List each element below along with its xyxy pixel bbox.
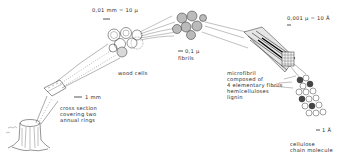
scale-label-molecule: 1 Å (322, 127, 331, 133)
scale-label-cross-section: 1 mm (85, 94, 101, 100)
label-wood-cells: wood cells (118, 70, 148, 76)
zoom-cone-4 (202, 22, 248, 48)
cellulose-molecule (296, 75, 326, 116)
microfibril-bundle (244, 27, 295, 72)
label-cross-section: cross section covering two annual rings (60, 105, 97, 123)
scale-bars (74, 19, 320, 130)
scale-label-fibrils: 0,1 µ (185, 48, 199, 54)
label-fibrils: fibrils (178, 55, 194, 61)
fibrils-cluster (173, 11, 207, 40)
zoom-cone-2 (56, 44, 120, 88)
scale-label-wood-cells: 0,01 mm = 10 µ (92, 7, 138, 13)
wood-structure-diagram: 0,01 mm = 10 µ wood cells 0,1 µ fibrils … (0, 0, 342, 157)
scale-label-microfibril: 0,001 µ = 10 Å (287, 15, 330, 21)
diagram-drawing (0, 0, 342, 157)
label-cellulose-chain: cellulose chain molecule (290, 141, 333, 153)
tree-stump-icon (6, 120, 50, 151)
zoom-cone-3 (140, 16, 178, 40)
zoom-cone-1 (36, 96, 58, 124)
label-microfibril: microfibril composed of 4 elementary fib… (227, 70, 283, 100)
wood-cells-cluster (108, 28, 143, 58)
